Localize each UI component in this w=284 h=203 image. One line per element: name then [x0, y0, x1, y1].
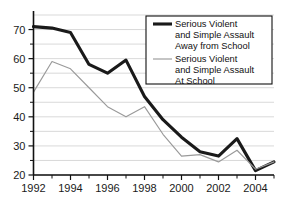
line-chart: 203040506070 199219941996199820002002200…	[0, 0, 284, 203]
y-tick-label: 70	[13, 24, 25, 36]
x-tick-label: 2000	[169, 182, 193, 194]
legend-entry-0-line-2: and Simple Assault	[175, 30, 254, 40]
y-tick-label: 40	[13, 111, 25, 123]
legend-entry-1-line-1: Serious Violent	[175, 54, 238, 64]
y-tick-label: 50	[13, 82, 25, 94]
x-tick-label: 1998	[132, 182, 156, 194]
legend-entry-0-line-3: Away from School	[175, 41, 250, 51]
x-tick-label: 1992	[21, 182, 45, 194]
chart-legend: Serious Violent and Simple Assault Away …	[146, 16, 272, 86]
y-axis-tick-labels: 203040506070	[13, 24, 25, 181]
y-tick-label: 20	[13, 169, 25, 181]
x-tick-label: 1996	[95, 182, 119, 194]
chart-canvas: 203040506070 199219941996199820002002200…	[0, 0, 284, 203]
y-tick-label: 60	[13, 53, 25, 65]
legend-entry-0-line-1: Serious Violent	[175, 19, 238, 29]
legend-entry-1-line-3: At School	[175, 76, 215, 86]
x-tick-label: 2002	[206, 182, 230, 194]
y-tick-label: 30	[13, 140, 25, 152]
x-tick-label: 2004	[243, 182, 267, 194]
x-axis-tick-labels: 1992199419961998200020022004	[21, 182, 267, 194]
x-tick-label: 1994	[58, 182, 82, 194]
legend-entry-1-line-2: and Simple Assault	[175, 65, 254, 75]
